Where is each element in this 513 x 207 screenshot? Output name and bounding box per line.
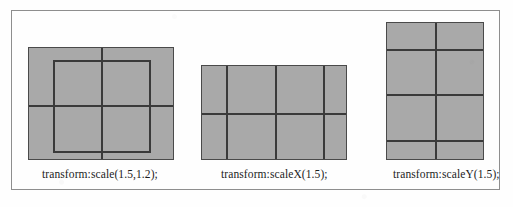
scaled-box-3 <box>386 22 484 160</box>
grid-horizontal-line <box>387 140 483 142</box>
grid-horizontal-line <box>387 94 483 96</box>
original-box-outline <box>53 60 151 153</box>
grid-horizontal-line <box>202 113 346 115</box>
figure-caption-scale-y: transform:scaleY(1.5); <box>393 168 500 180</box>
grid-vertical-line <box>435 23 437 159</box>
scaled-box-2 <box>201 65 347 160</box>
figure-caption-scale-x: transform:scaleX(1.5); <box>221 168 328 180</box>
figure-canvas: transform:scale(1.5,1.2); transform:scal… <box>0 0 513 207</box>
grid-horizontal-line <box>387 49 483 51</box>
figure-caption-scale-xy: transform:scale(1.5,1.2); <box>42 168 158 180</box>
scaled-box-1 <box>28 47 174 160</box>
